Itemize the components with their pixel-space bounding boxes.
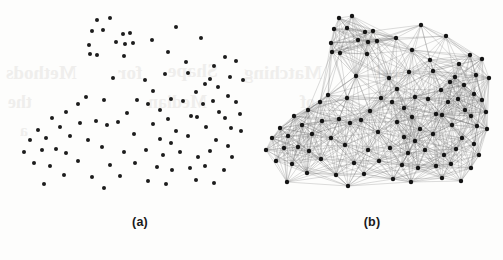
graph-node (329, 136, 333, 140)
graph-edge (368, 42, 412, 50)
figure-container: MethodsforShapeMatchingandtheMedianofa (… (0, 0, 503, 260)
scatter-point (216, 85, 220, 89)
graph-node (440, 176, 444, 180)
scatter-point (50, 116, 54, 120)
graph-node (274, 159, 278, 163)
graph-node (371, 29, 375, 33)
scatter-point (174, 129, 178, 133)
graph-node (330, 50, 334, 54)
graph-node (290, 162, 294, 166)
graph-node (363, 30, 367, 34)
scatter-point (132, 132, 136, 136)
graph-node (431, 69, 435, 73)
graph-node (394, 36, 398, 40)
scatter-point (108, 163, 112, 167)
graph-node (487, 76, 491, 80)
graph-edge (321, 150, 368, 159)
scatter-point (223, 55, 227, 59)
graph-node (454, 147, 458, 151)
scatter-point (68, 134, 72, 138)
scatter-plot-a (0, 0, 251, 205)
graph-node (345, 26, 349, 30)
graph-edge (356, 72, 409, 76)
graph-node (319, 157, 323, 161)
graph-node (474, 73, 478, 77)
graph-node (337, 16, 341, 20)
scatter-point (241, 78, 245, 82)
graph-node (402, 135, 406, 139)
graph-edge (348, 182, 411, 186)
graph-node (426, 97, 430, 101)
graph-edge (321, 159, 364, 174)
scatter-point (181, 99, 185, 103)
graph-node (485, 127, 489, 131)
graph-node (366, 148, 370, 152)
scatter-point (135, 98, 139, 102)
graph-node (410, 48, 414, 52)
graph-node (282, 146, 286, 150)
scatter-point (229, 126, 233, 130)
graph-node (446, 100, 450, 104)
scatter-point (78, 121, 82, 125)
scatter-point (151, 122, 155, 126)
scatter-point (144, 148, 148, 152)
graph-node (306, 108, 310, 112)
graph-node (296, 145, 300, 149)
graph-node (418, 127, 422, 131)
scatter-point (170, 168, 174, 172)
scatter-point (36, 128, 40, 132)
graph-node (337, 117, 341, 121)
scatter-point (131, 41, 135, 45)
graph-node (354, 74, 358, 78)
graph-node (365, 52, 369, 56)
graph-edge (421, 25, 482, 59)
graph-node (395, 120, 399, 124)
graph-node (469, 166, 473, 170)
scatter-point (164, 182, 168, 186)
graph-node (480, 57, 484, 61)
graph-node (416, 166, 420, 170)
graph-node (346, 184, 350, 188)
graph-node (356, 38, 360, 42)
graph-node (463, 108, 467, 112)
graph-node (352, 161, 356, 165)
scatter-point (228, 75, 232, 79)
graph-node (477, 153, 481, 157)
graph-node (278, 126, 282, 130)
scatter-point (76, 102, 80, 106)
scatter-point (111, 76, 115, 80)
graph-node (320, 119, 324, 123)
scatter-point (101, 28, 105, 32)
scatter-point (174, 25, 178, 29)
scatter-point (146, 102, 150, 106)
scatter-point (86, 138, 90, 142)
scatter-point (76, 159, 80, 163)
graph-node (413, 139, 417, 143)
scatter-point (169, 141, 173, 145)
scatter-point (133, 161, 137, 165)
scatter-point (214, 138, 218, 142)
graph-node (423, 148, 427, 152)
graph-node (480, 98, 484, 102)
proximity-graph-b (251, 0, 503, 205)
scatter-point (146, 179, 150, 183)
scatter-point (230, 155, 234, 159)
graph-node (428, 58, 432, 62)
scatter-point (203, 82, 207, 86)
graph-node (440, 113, 444, 117)
scatter-point (199, 36, 203, 40)
scatter-point (194, 90, 198, 94)
scatter-point (44, 136, 48, 140)
scatter-point (158, 108, 162, 112)
graph-node (286, 134, 290, 138)
scatter-point (211, 99, 215, 103)
scatter-point (58, 125, 62, 129)
graph-node (442, 153, 446, 157)
graph-node (264, 148, 268, 152)
scatter-point (100, 145, 104, 149)
graph-node (377, 159, 381, 163)
graph-node (387, 76, 391, 80)
graph-node (453, 75, 457, 79)
scatter-point (64, 110, 68, 114)
scatter-point (204, 125, 208, 129)
